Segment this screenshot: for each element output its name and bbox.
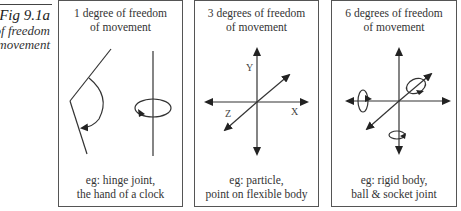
y-axis-label: Y: [246, 62, 253, 73]
example-line-1: eg: hinge joint,: [59, 173, 182, 187]
hinge-arm-upper: [70, 49, 111, 101]
panel-6-degrees: 6 degrees of freedom of movement eg: rig…: [331, 0, 457, 207]
z-axis-back: [257, 75, 289, 102]
panel-example: eg: rigid body, ball & socket joint: [332, 173, 456, 201]
panel-example: eg: particle, point on flexible body: [195, 173, 318, 201]
example-line-2: ball & socket joint: [332, 187, 456, 201]
example-line-2: the hand of a clock: [59, 187, 182, 201]
x-axis-label: X: [291, 106, 299, 117]
rotation-arc-arrow: [82, 78, 103, 128]
caption-rule: [0, 4, 52, 5]
panel-1-degree: 1 degree of freedom of movement eg: hing…: [58, 0, 183, 207]
example-line-2: point on flexible body: [195, 187, 318, 201]
panel-3-degrees: 3 degrees of freedom of movement Y X Z e…: [194, 0, 319, 207]
z-axis-label: Z: [225, 108, 231, 119]
z-axis-back: [399, 74, 431, 101]
caption-line-1: of freedom: [0, 24, 50, 38]
z-axis-front: [367, 101, 399, 129]
figure-number: Fig 9.1a: [0, 7, 50, 24]
figure-caption: Fig 9.1a of freedom movement: [0, 7, 50, 52]
example-line-1: eg: rigid body,: [332, 173, 456, 187]
panel-example: eg: hinge joint, the hand of a clock: [59, 173, 182, 201]
example-line-1: eg: particle,: [195, 173, 318, 187]
caption-line-2: movement: [0, 38, 50, 52]
